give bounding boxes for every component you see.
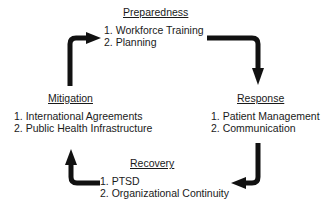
stage-item: 2. Planning [104, 36, 204, 48]
stage-recovery: Recovery 1. PTSD 2. Organizational Conti… [100, 157, 229, 199]
stage-title: Response [237, 92, 335, 104]
stage-item: 2. Communication [211, 122, 320, 134]
stage-item: 2. Organizational Continuity [100, 187, 229, 199]
arrow-preparedness-to-response [207, 38, 264, 85]
stage-item: 1. Patient Management [211, 110, 320, 122]
stage-preparedness: Preparedness 1. Workforce Training 2. Pl… [104, 6, 204, 48]
arrow-recovery-to-mitigation [65, 149, 100, 183]
stage-title: Mitigation [48, 92, 186, 104]
disaster-cycle-diagram: Preparedness 1. Workforce Training 2. Pl… [0, 0, 335, 207]
stage-mitigation: Mitigation 1. International Agreements 2… [14, 92, 152, 134]
stage-item: 1. Workforce Training [104, 24, 204, 36]
stage-title: Preparedness [123, 6, 223, 18]
stage-response: Response 1. Patient Management 2. Commun… [211, 92, 320, 134]
stage-title: Recovery [130, 157, 259, 169]
arrow-mitigation-to-preparedness [70, 32, 101, 86]
stage-item: 1. International Agreements [14, 110, 152, 122]
stage-item: 1. PTSD [100, 175, 229, 187]
stage-item: 2. Public Health Infrastructure [14, 122, 152, 134]
